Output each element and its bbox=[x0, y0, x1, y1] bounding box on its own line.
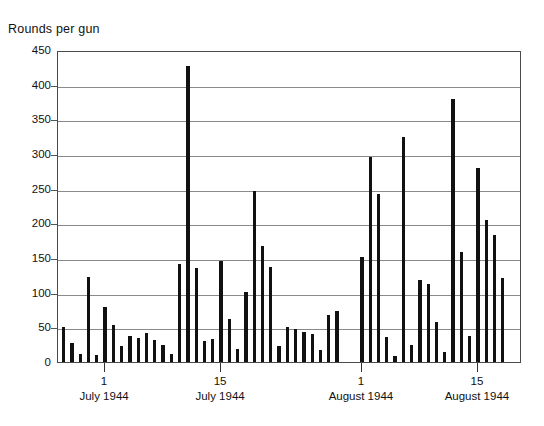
bar-series bbox=[58, 52, 520, 362]
bar bbox=[311, 334, 314, 362]
x-axis-tick-day: 1 bbox=[79, 374, 128, 388]
bar bbox=[485, 220, 488, 362]
bar bbox=[145, 333, 148, 362]
bar bbox=[186, 66, 189, 362]
bar bbox=[277, 346, 280, 362]
x-axis-tick-group: 1August 1944 bbox=[329, 374, 394, 404]
x-axis-tick-month: July 1944 bbox=[195, 388, 244, 404]
bar bbox=[128, 336, 131, 362]
bar bbox=[103, 307, 106, 362]
bar bbox=[137, 338, 140, 362]
bar bbox=[435, 322, 438, 362]
bar bbox=[228, 319, 231, 362]
bar bbox=[377, 194, 380, 362]
x-axis-tick-mark bbox=[477, 363, 478, 372]
bar bbox=[468, 336, 471, 362]
bar bbox=[153, 340, 156, 362]
bar bbox=[79, 354, 82, 362]
bar bbox=[451, 99, 454, 362]
x-axis-tick-mark bbox=[220, 363, 221, 372]
bar bbox=[369, 157, 372, 362]
bar bbox=[402, 137, 405, 362]
y-axis-title: Rounds per gun bbox=[8, 22, 100, 36]
bar bbox=[261, 246, 264, 362]
x-axis-tick-month: August 1944 bbox=[329, 388, 394, 404]
x-axis-tick-month: July 1944 bbox=[79, 388, 128, 404]
plot-area bbox=[57, 51, 521, 363]
x-axis: 1July 194415July 19441August 194415Augus… bbox=[57, 363, 521, 423]
bar bbox=[327, 315, 330, 362]
bar bbox=[302, 332, 305, 363]
bar bbox=[253, 191, 256, 362]
bar bbox=[393, 356, 396, 362]
bar bbox=[236, 349, 239, 362]
bar bbox=[195, 268, 198, 362]
bar bbox=[70, 343, 73, 362]
bar bbox=[385, 337, 388, 362]
x-axis-tick-group: 15August 1944 bbox=[445, 374, 510, 404]
bar bbox=[120, 346, 123, 362]
bar bbox=[87, 277, 90, 362]
bar bbox=[418, 280, 421, 363]
x-axis-tick-mark bbox=[104, 363, 105, 372]
bar bbox=[286, 327, 289, 362]
bar bbox=[178, 264, 181, 362]
bar bbox=[319, 350, 322, 362]
bar bbox=[211, 339, 214, 362]
bar bbox=[360, 257, 363, 362]
bar bbox=[219, 261, 222, 362]
bar bbox=[476, 168, 479, 362]
bar bbox=[294, 329, 297, 362]
bar bbox=[460, 252, 463, 362]
bar bbox=[427, 284, 430, 362]
x-axis-tick-day: 15 bbox=[195, 374, 244, 388]
bar bbox=[244, 292, 247, 362]
bar bbox=[203, 341, 206, 362]
bar bbox=[62, 327, 65, 362]
x-axis-tick-group: 15July 1944 bbox=[195, 374, 244, 404]
bar bbox=[493, 235, 496, 362]
x-axis-tick-day: 1 bbox=[329, 374, 394, 388]
x-axis-tick-group: 1July 1944 bbox=[79, 374, 128, 404]
bar bbox=[170, 354, 173, 362]
x-axis-tick-month: August 1944 bbox=[445, 388, 510, 404]
bar bbox=[95, 355, 98, 362]
bar bbox=[161, 345, 164, 362]
bar bbox=[335, 311, 338, 362]
chart-figure: Rounds per gun 4504003503002502001501005… bbox=[0, 0, 544, 426]
y-axis-tick-marks bbox=[0, 51, 57, 363]
x-axis-tick-mark bbox=[361, 363, 362, 372]
bar bbox=[410, 345, 413, 362]
x-axis-tick-day: 15 bbox=[445, 374, 510, 388]
bar bbox=[501, 278, 504, 362]
bar bbox=[269, 267, 272, 362]
bar bbox=[443, 352, 446, 362]
bar bbox=[112, 325, 115, 362]
